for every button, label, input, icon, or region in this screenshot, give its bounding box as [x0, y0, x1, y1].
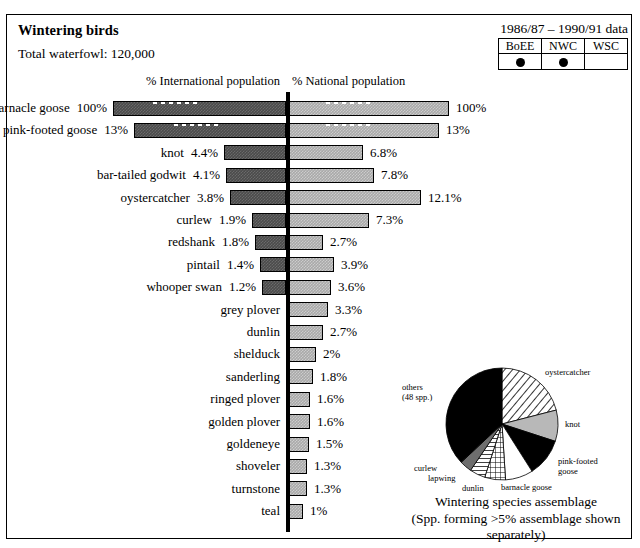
species-name: grey plover: [220, 302, 280, 317]
national-value: 3.9%: [341, 257, 368, 273]
bar-international: [260, 257, 286, 272]
international-value: 100%: [77, 100, 107, 115]
bar-national: [289, 257, 334, 272]
total-waterfowl-label: Total waterfowl: 120,000: [18, 46, 155, 62]
species-name: barnacle goose: [0, 100, 70, 115]
bar-national: [289, 459, 307, 474]
page-title: Wintering birds: [18, 22, 119, 39]
survey-mark-nwc: [542, 54, 585, 70]
pie-label-knot: knot: [565, 420, 580, 430]
national-value: 3.3%: [335, 302, 362, 318]
chart-row: knot4.4%6.8%: [0, 143, 640, 165]
row-label-oystercatcher: oystercatcher3.8%: [121, 190, 224, 206]
bar-international: [226, 168, 286, 183]
national-value: 12.1%: [428, 190, 462, 206]
survey-header-row: BoEE NWC WSC: [499, 39, 628, 54]
national-value: 2.7%: [330, 234, 357, 250]
international-value: 13%: [104, 122, 128, 137]
row-label-goldeneye: goldeneye: [227, 436, 280, 452]
filled-dot-icon: [516, 58, 525, 67]
national-value: 1.3%: [314, 481, 341, 497]
pie-label-lapwing: lapwing: [428, 474, 455, 484]
scale-break-mark: [174, 124, 222, 126]
species-name: curlew: [177, 212, 212, 227]
species-name: whooper swan: [146, 279, 221, 294]
chart-row: curlew1.9%7.3%: [0, 210, 640, 232]
row-label-pink-footed-goose: pink-footed goose13%: [3, 122, 128, 138]
national-value: 13%: [446, 122, 470, 138]
bar-international: [224, 145, 286, 160]
row-label-grey-plover: grey plover: [220, 302, 280, 318]
pie-slices: [446, 368, 558, 480]
scale-break-mark: [153, 102, 201, 104]
row-label-turnstone: turnstone: [232, 481, 280, 497]
international-value: 4.1%: [193, 167, 220, 182]
axis-header-international: % International population: [146, 74, 280, 89]
row-label-barnacle-goose: barnacle goose100%: [0, 100, 107, 116]
bar-national: [289, 437, 309, 452]
bar-national: [289, 302, 328, 317]
species-name: redshank: [168, 234, 215, 249]
bar-national: [289, 190, 421, 205]
species-name: pintail: [187, 257, 220, 272]
species-name: shoveler: [236, 458, 280, 473]
chart-row: barnacle goose100%100%: [0, 98, 640, 120]
pie-label-oystercatcher: oystercatcher: [545, 368, 590, 378]
pie-label-barnacle-goose: barnacle goose: [501, 483, 552, 493]
international-value: 1.8%: [222, 234, 249, 249]
pie-label-curlew: curlew: [414, 464, 437, 474]
pie-caption-subtitle: (Spp. forming >5% assemblage shown separ…: [400, 511, 632, 543]
species-name: turnstone: [232, 481, 280, 496]
row-label-bar-tailed-godwit: bar-tailed godwit4.1%: [97, 167, 220, 183]
national-value: 7.8%: [381, 167, 408, 183]
chart-row: pintail1.4%3.9%: [0, 255, 640, 277]
chart-row: oystercatcher3.8%12.1%: [0, 188, 640, 210]
species-name: oystercatcher: [121, 190, 190, 205]
bar-international: [262, 280, 286, 295]
national-value: 6.8%: [370, 145, 397, 161]
international-value: 1.2%: [229, 279, 256, 294]
national-value: 7.3%: [376, 212, 403, 228]
international-value: 1.9%: [219, 212, 246, 227]
row-label-shoveler: shoveler: [236, 458, 280, 474]
row-label-dunlin: dunlin: [247, 324, 280, 340]
species-name: shelduck: [234, 346, 280, 361]
species-name: teal: [261, 503, 280, 518]
bar-national: [289, 213, 369, 228]
national-value: 1.5%: [316, 436, 343, 452]
survey-col-wsc: WSC: [585, 39, 628, 54]
row-label-redshank: redshank1.8%: [168, 234, 249, 250]
bar-national: [289, 347, 316, 362]
species-name: ringed plover: [210, 391, 280, 406]
species-name: bar-tailed godwit: [97, 167, 186, 182]
bar-international: [255, 235, 286, 250]
bar-national: [289, 414, 310, 429]
bar-national: [289, 481, 307, 496]
bar-national: [289, 369, 313, 384]
row-label-knot: knot4.4%: [161, 145, 218, 161]
row-label-pintail: pintail1.4%: [187, 257, 254, 273]
bar-international: [230, 190, 286, 205]
international-value: 3.8%: [197, 190, 224, 205]
national-value: 3.6%: [338, 279, 365, 295]
survey-col-boee: BoEE: [499, 39, 542, 54]
national-value: 1%: [310, 503, 327, 519]
pie-label-pink-footed-goose: pink-footedgoose: [558, 456, 598, 476]
row-label-golden-plover: golden plover: [208, 414, 280, 430]
pie-chart-panel: others (48 spp.) oystercatcher knot pink…: [400, 360, 632, 535]
bar-national: [289, 168, 374, 183]
species-name: goldeneye: [227, 436, 280, 451]
national-value: 1.6%: [317, 414, 344, 430]
chart-row: pink-footed goose13%13%: [0, 120, 640, 142]
row-label-shelduck: shelduck: [234, 346, 280, 362]
international-value: 4.4%: [191, 145, 218, 160]
row-label-ringed-plover: ringed plover: [210, 391, 280, 407]
center-axis-line: [286, 92, 290, 532]
national-value: 2%: [323, 346, 340, 362]
national-value: 1.6%: [317, 391, 344, 407]
international-value: 1.4%: [227, 257, 254, 272]
scale-break-mark: [326, 124, 374, 126]
bar-national: [289, 235, 323, 250]
survey-legend-table: BoEE NWC WSC: [498, 38, 628, 70]
row-label-teal: teal: [261, 503, 280, 519]
